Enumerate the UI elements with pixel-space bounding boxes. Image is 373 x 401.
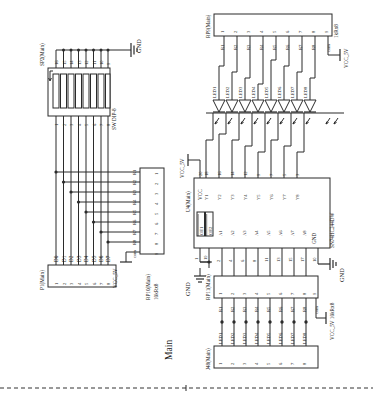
svg-text:R1: R1 (218, 306, 223, 312)
svg-text:R7: R7 (290, 306, 295, 312)
u4-vcc-pin: 20 (198, 171, 203, 176)
led-4 (252, 100, 264, 124)
svg-text:4: 4 (228, 259, 233, 262)
svg-text:18: 18 (204, 171, 209, 176)
u4-ref: U4(Main) (185, 191, 192, 212)
rp10-element-labels: R1 R2 R3 R4 R5 R6 R7 R8 com (132, 169, 137, 258)
svg-text:10: 10 (99, 60, 104, 65)
svg-text:D4: D4 (83, 255, 89, 262)
sp2-top-pin-numbers: 16 15 14 13 12 11 10 9 (54, 60, 111, 65)
rp11-vcc-value: VCC_5V 10kRx8 (329, 302, 335, 340)
gnd-label-dip: GND (135, 39, 142, 53)
svg-text:LED7: LED7 (290, 332, 295, 344)
svg-text:R2: R2 (132, 179, 137, 185)
svg-text:Y4: Y4 (243, 194, 248, 200)
svg-text:A1: A1 (218, 230, 223, 236)
svg-text:11: 11 (92, 60, 97, 65)
oe1-pin: 1 (194, 257, 199, 260)
group-rp10: 1 2 3 4 5 6 7 8 9 R1 R2 R3 R4 R5 R6 R7 R… (112, 168, 164, 300)
led-5 (265, 100, 277, 124)
led-7 (291, 100, 303, 124)
svg-text:D2: D2 (68, 255, 74, 262)
svg-text:LED1: LED1 (212, 86, 217, 98)
svg-text:A7: A7 (290, 230, 295, 236)
u4-vcc-net: VCC_5V (179, 158, 185, 178)
u4-part: SN74HC244DW (329, 212, 335, 248)
group-data-bus-left (54, 116, 140, 265)
rp10-value: 10kRx8 (153, 283, 159, 300)
svg-text:14: 14 (69, 60, 74, 65)
svg-text:R1: R1 (132, 169, 137, 175)
gnd-symbol-u4 (318, 258, 336, 270)
svg-text:R8: R8 (302, 306, 307, 312)
svg-text:Y3: Y3 (230, 194, 235, 200)
rp10-ref: RP10(Main) (145, 274, 152, 300)
svg-text:Y8: Y8 (295, 194, 300, 200)
svg-text:R6: R6 (132, 219, 137, 225)
j48-bus-junctions (220, 320, 307, 323)
group-p1-connector: 1 2 3 4 5 6 7 8 D0 D1 D2 D3 D4 D5 D6 D7 … (39, 255, 116, 290)
schematic-canvas: GND 16 15 14 13 12 11 10 9 1 2 3 4 5 6 7… (0, 0, 373, 401)
svg-text:LED8: LED8 (302, 332, 307, 344)
rp10-body (140, 168, 164, 254)
svg-text:11: 11 (264, 257, 269, 262)
j48-ref: J48(Main) (205, 348, 212, 370)
svg-text:15: 15 (62, 60, 67, 65)
rp10-vcc-label: VCC_5V (112, 268, 118, 288)
svg-text:2: 2 (216, 259, 221, 262)
svg-text:LED7: LED7 (290, 86, 295, 98)
svg-text:A3: A3 (242, 230, 247, 236)
svg-text:LED1: LED1 (218, 332, 223, 344)
u4-gnd-pin: 10 (312, 257, 317, 262)
svg-text:R3: R3 (132, 189, 137, 195)
svg-text:LED6: LED6 (277, 86, 282, 98)
svg-text:LED8: LED8 (303, 86, 308, 98)
led-ref-labels: LED1 LED2 LED3 LED4 LED5 LED6 LED7 LED8 (212, 86, 308, 98)
oe2-pin: 19 (203, 255, 208, 260)
svg-text:LED5: LED5 (266, 332, 271, 344)
gnd-net-oe: GND (184, 282, 191, 296)
rp9-ref: RP9(Main) (205, 14, 212, 38)
svg-text:D3: D3 (76, 255, 82, 262)
p1-ref: P1(Main) (39, 270, 46, 290)
svg-text:R5: R5 (266, 306, 271, 312)
svg-text:Y5: Y5 (256, 194, 261, 200)
sp2-actuators[interactable] (53, 74, 110, 108)
svg-text:R4: R4 (132, 199, 137, 205)
schematic-sheet: GND 16 15 14 13 12 11 10 9 1 2 3 4 5 6 7… (0, 0, 373, 401)
svg-text:15: 15 (288, 257, 293, 262)
svg-text:A6: A6 (278, 230, 283, 236)
svg-text:Y7: Y7 (282, 194, 287, 200)
svg-text:LED5: LED5 (264, 86, 269, 98)
rp9-value: 1kRx8 (333, 24, 339, 38)
u4-vcc-label: VCC (197, 189, 203, 200)
rp11-ref: RP11(Main) (205, 274, 212, 300)
u4-body (194, 178, 330, 248)
svg-text:Y1: Y1 (204, 194, 209, 200)
svg-text:Y6: Y6 (269, 194, 274, 200)
svg-text:LED4: LED4 (251, 86, 256, 98)
svg-text:D5: D5 (91, 255, 97, 262)
svg-text:12: 12 (84, 60, 89, 65)
svg-text:Y2: Y2 (217, 194, 222, 200)
led-symbols (213, 100, 338, 124)
group-rp9: 1 2 3 4 5 6 7 8 9 R1 R2 R3 R4 R5 R6 R7 R… (205, 14, 349, 68)
svg-text:LED2: LED2 (225, 86, 230, 98)
group-u4-buffer: U4(Main) SN74HC244DW VCC_5V 20 VCC Y1 Y2… (179, 154, 345, 346)
svg-text:13: 13 (77, 60, 82, 65)
svg-text:D7: D7 (105, 255, 111, 262)
svg-text:A8: A8 (302, 230, 307, 236)
led-1 (213, 100, 225, 124)
sheet-title: Main (163, 340, 174, 360)
svg-text:8: 8 (252, 259, 257, 262)
led-emission-extra (326, 118, 330, 124)
gnd-net-u4: GND (338, 268, 345, 282)
j48-signal-labels: LED1 LED2 LED3 LED4 LED5 LED6 LED7 LED8 (218, 332, 307, 344)
svg-text:D0: D0 (53, 255, 59, 262)
svg-text:A4: A4 (254, 230, 259, 236)
p1-signal-labels: D0 D1 D2 D3 D4 D5 D6 D7 (53, 255, 111, 262)
svg-text:12: 12 (243, 171, 248, 176)
group-j48-connector: J48(Main) 1 2 3 4 5 6 7 8 LED1 LED2 LED3… (205, 332, 318, 370)
led-3 (239, 100, 251, 124)
led-8 (304, 100, 316, 124)
